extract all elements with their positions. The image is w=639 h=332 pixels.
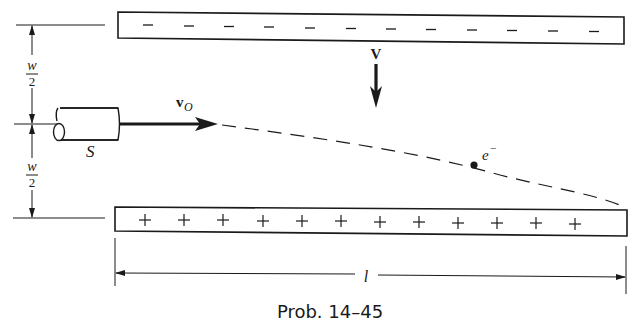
- initial-velocity-label: v O: [176, 94, 193, 114]
- electron-symbol: e: [482, 147, 489, 163]
- field-direction-arrow: [370, 64, 382, 108]
- electron-source-cylinder: [54, 108, 120, 141]
- top-plate: [118, 12, 624, 44]
- bottom-plate: [115, 207, 627, 236]
- potential-label: V: [371, 46, 382, 62]
- deflection-diagram: w 2 w 2 S v O V e −: [0, 0, 639, 332]
- figure-caption: Prob. 14–45: [277, 301, 383, 322]
- half-width-top-denominator: 2: [29, 74, 36, 89]
- length-dimension: [115, 238, 626, 294]
- electron-dot: [470, 161, 477, 168]
- source-label: S: [86, 142, 95, 161]
- length-label: l: [364, 268, 369, 285]
- electron-trajectory: [222, 125, 626, 208]
- velocity-symbol: v: [176, 94, 184, 110]
- half-width-label-bottom: w 2: [26, 159, 38, 190]
- half-width-label-top: w 2: [26, 58, 38, 89]
- electron-label: e −: [482, 142, 496, 163]
- half-width-bottom-denominator: 2: [29, 175, 36, 190]
- initial-velocity-arrow: [119, 117, 218, 131]
- velocity-subscript: O: [184, 100, 193, 114]
- electron-superscript: −: [490, 142, 496, 154]
- half-width-top-numerator: w: [27, 58, 37, 73]
- half-width-bottom-numerator: w: [27, 159, 37, 174]
